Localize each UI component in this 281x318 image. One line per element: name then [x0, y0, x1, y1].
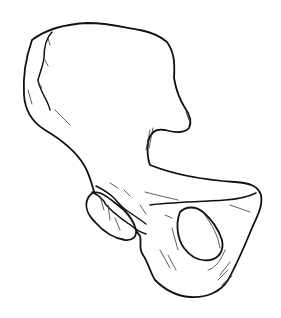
hip-bone-drawing: [0, 0, 281, 318]
bone-outline: [24, 23, 262, 297]
illustration-canvas: hip bone line drawing: [0, 0, 281, 318]
